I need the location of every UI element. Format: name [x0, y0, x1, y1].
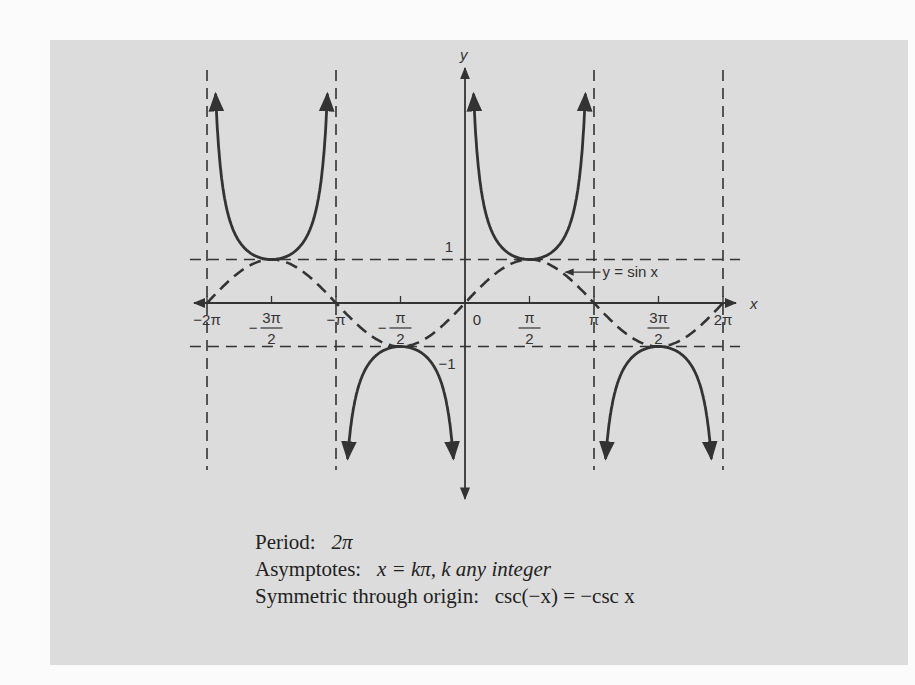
svg-text:π: π: [395, 309, 405, 326]
caption-period: Period: 2π: [255, 530, 352, 555]
x-tick-label: π2: [518, 309, 540, 347]
svg-text:2π: 2π: [714, 311, 733, 328]
csc-branch: [606, 347, 712, 459]
x-axis-label: x: [749, 295, 758, 312]
x-tick-label: −π: [326, 311, 345, 328]
sin-annotation-label: y = sin x: [603, 263, 659, 280]
csc-branch: [216, 94, 328, 260]
svg-text:0: 0: [473, 311, 481, 328]
svg-text:−2π: −2π: [193, 311, 220, 328]
x-tick-label: 3π2−: [249, 309, 283, 347]
csc-branch: [474, 94, 586, 260]
x-tick-label: 2π: [714, 311, 733, 328]
svg-text:π: π: [589, 311, 599, 328]
svg-text:π: π: [524, 309, 534, 326]
x-tick-label: 0: [473, 311, 481, 328]
svg-text:2: 2: [267, 330, 275, 347]
figure-panel: xy−2π3π2−−ππ2−0π2π3π22π1−1y = sin x Peri…: [50, 40, 908, 665]
y-tick-label-neg1: −1: [438, 355, 455, 372]
caption-symmetry: Symmetric through origin: csc(−x) = −csc…: [255, 584, 635, 609]
x-tick-label: 3π2: [647, 309, 669, 347]
y-axis-label: y: [459, 46, 469, 63]
svg-text:−π: −π: [326, 311, 345, 328]
svg-text:2: 2: [396, 330, 404, 347]
svg-text:3π: 3π: [262, 309, 281, 326]
caption-asymptotes: Asymptotes: x = kπ, k any integer: [255, 557, 551, 582]
x-tick-label: −2π: [193, 311, 220, 328]
svg-text:−: −: [249, 319, 258, 336]
y-tick-label-1: 1: [445, 238, 453, 255]
svg-text:3π: 3π: [649, 309, 668, 326]
x-tick-label: π: [589, 311, 599, 328]
svg-text:−: −: [378, 319, 387, 336]
svg-text:2: 2: [525, 330, 533, 347]
svg-text:2: 2: [654, 330, 662, 347]
